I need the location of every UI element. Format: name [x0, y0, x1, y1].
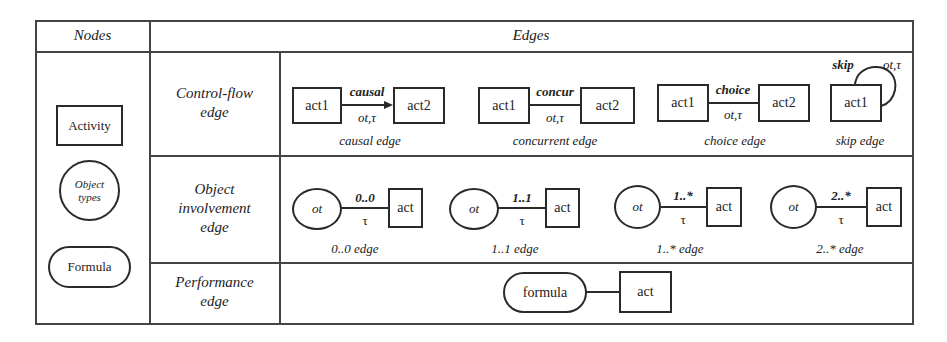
- edge-2-many-ot: ot: [770, 185, 817, 229]
- skip-loop-arc: [0, 0, 947, 342]
- edge-0-0-act: act: [388, 188, 423, 228]
- performance-act-node: act: [619, 271, 672, 313]
- performance-edge-line: [586, 291, 620, 293]
- edge-2-many-act: act: [866, 187, 902, 227]
- edge-1-1-act: act: [545, 188, 580, 228]
- edge-1-1-annotation: τ: [499, 213, 545, 229]
- skip-edge-type: skip: [823, 57, 863, 73]
- edge-0-0-ot: ot: [292, 188, 342, 230]
- node-label: formula: [523, 285, 567, 301]
- node-label: ot: [788, 199, 798, 215]
- node-label: act: [716, 199, 732, 215]
- node-label: ot: [469, 201, 479, 217]
- edge-0-0-annotation: τ: [342, 213, 388, 229]
- node-label: act: [554, 200, 570, 216]
- edge-1-1-line: [498, 207, 546, 209]
- performance-formula-node: formula: [503, 272, 587, 313]
- edge-1-many-line: [659, 206, 707, 208]
- node-label: act: [876, 199, 892, 215]
- edge-2-many-multiplicity: 2..*: [818, 188, 864, 204]
- node-label: act1: [844, 95, 867, 111]
- edge-1-many-multiplicity: 1..*: [660, 188, 706, 204]
- edge-1-many-caption: 1..* edge: [625, 241, 735, 257]
- edge-0-0-multiplicity: 0..0: [342, 190, 388, 206]
- node-label: ot: [632, 199, 642, 215]
- edge-0-0-caption: 0..0 edge: [300, 241, 410, 257]
- edge-1-1-multiplicity: 1..1: [499, 190, 545, 206]
- node-label: act: [637, 284, 653, 300]
- edge-1-many-annotation: τ: [660, 212, 706, 228]
- edge-1-1-caption: 1..1 edge: [460, 241, 570, 257]
- node-label: act: [397, 200, 413, 216]
- skip-edge-annotation: ot,τ: [873, 57, 911, 73]
- node-label: ot: [312, 201, 322, 217]
- skip-act1: act1: [830, 84, 882, 122]
- skip-edge-caption: skip edge: [815, 133, 905, 149]
- edge-2-many-annotation: τ: [818, 212, 864, 228]
- edge-2-many-caption: 2..* edge: [785, 241, 895, 257]
- edge-0-0-line: [341, 207, 389, 209]
- edge-2-many-line: [815, 206, 867, 208]
- edge-1-many-act: act: [706, 187, 742, 227]
- edge-1-1-ot: ot: [449, 188, 499, 230]
- edge-1-many-ot: ot: [614, 185, 661, 229]
